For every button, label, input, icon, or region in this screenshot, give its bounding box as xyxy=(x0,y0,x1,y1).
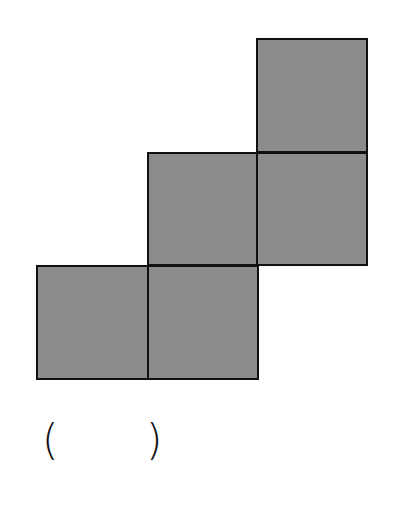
square-cell-bottom-left xyxy=(36,265,149,380)
square-cell-top xyxy=(256,38,368,153)
square-cell-mid-left xyxy=(147,152,258,266)
answer-close-paren: ) xyxy=(146,420,162,462)
square-cell-mid-right xyxy=(256,152,368,266)
square-cell-bottom-right xyxy=(147,265,259,380)
square-staircase-figure xyxy=(0,0,406,400)
answer-open-paren: ( xyxy=(42,420,58,462)
